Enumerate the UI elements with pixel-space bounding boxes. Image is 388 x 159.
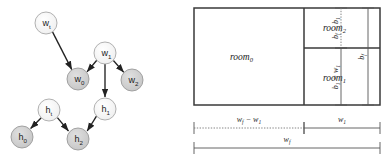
graph-node-h-t[interactable]: ht [38, 99, 60, 121]
horizontal-dimension-wf-minus-w1: wf − w1 [194, 115, 304, 134]
dim-text-wf: wf [284, 135, 292, 145]
graph-node-h-0[interactable]: h0 [11, 126, 33, 148]
dependency-graph-svg: wt w1 w0 w2 ht [0, 0, 188, 159]
dependency-graph-panel: wt w1 w0 w2 ht [0, 0, 188, 159]
edge-h1-h2 [87, 116, 96, 131]
dim-text-bf: bf [357, 53, 367, 60]
floorplan-panel: room0 room2 room1 bf − b1 b1 = w1 [186, 0, 388, 159]
vertical-dimension-bf: bf [357, 8, 374, 105]
edge-w1-w0 [87, 60, 97, 72]
graph-node-h-2[interactable]: h2 [67, 128, 89, 150]
horizontal-dimension-w1: w1 [304, 115, 380, 134]
dim-text-bf-minus-b1: bf − b1 [331, 17, 341, 39]
graph-nodes: wt w1 w0 w2 ht [11, 12, 143, 150]
edge-ht-h0 [31, 118, 42, 129]
graph-node-w-2[interactable]: w2 [121, 69, 143, 91]
graph-node-w-t[interactable]: wt [35, 12, 57, 34]
graph-node-w-0[interactable]: w0 [67, 68, 89, 90]
edge-w1-w2 [113, 61, 123, 73]
graph-node-w-1[interactable]: w1 [94, 42, 116, 64]
figure-root: wt w1 w0 w2 ht [0, 0, 388, 159]
graph-node-h-1[interactable]: h1 [94, 98, 116, 120]
dim-text-b1-equals-w1: b1 = w1 [331, 65, 341, 90]
edge-ht-h2 [57, 118, 68, 131]
room-label-room-0: room0 [230, 52, 254, 63]
room-labels: room0 room2 room1 [230, 23, 347, 84]
edge-wt-w0 [53, 32, 72, 70]
floorplan-outer-boundary [194, 8, 380, 105]
floorplan-svg: room0 room2 room1 bf − b1 b1 = w1 [186, 0, 388, 159]
dim-text-wf-minus-w1: wf − w1 [237, 115, 262, 125]
horizontal-dimension-wf: wf [194, 135, 380, 154]
dim-text-w1: w1 [338, 115, 346, 125]
